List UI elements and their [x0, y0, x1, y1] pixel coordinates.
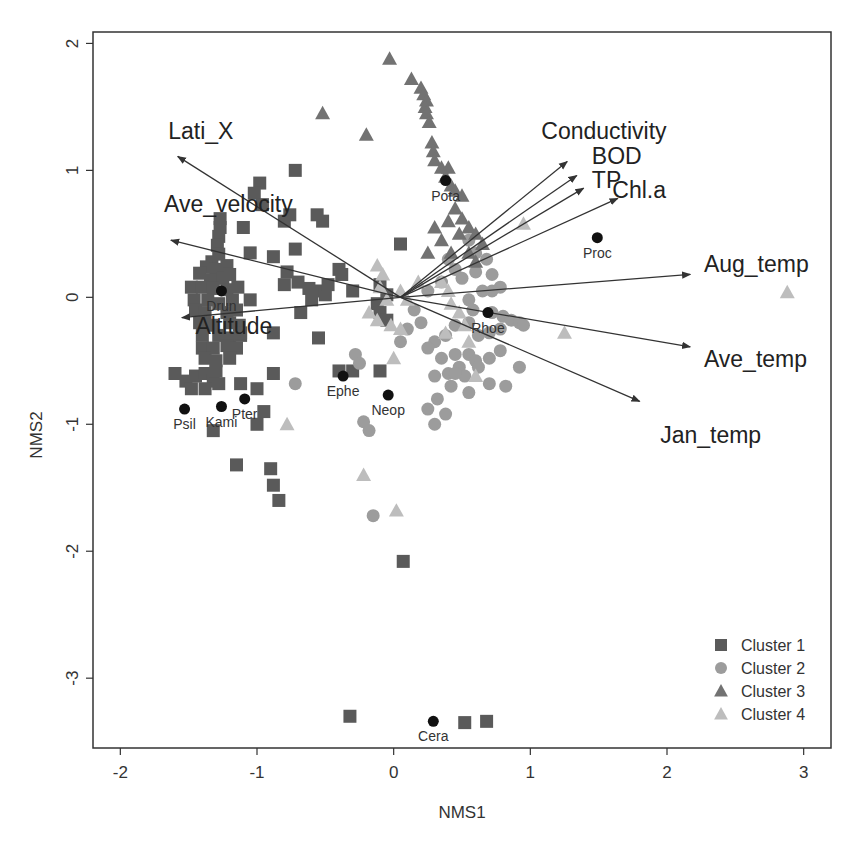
taxon-label: Psil [173, 416, 196, 432]
x-tick-label: 1 [526, 763, 535, 782]
cluster-1-point [234, 377, 247, 390]
cluster-2-point [483, 352, 496, 365]
taxon-point [482, 307, 493, 318]
taxon-label: Drun [206, 298, 236, 314]
cluster-2-point [431, 392, 444, 405]
cluster-2-point [480, 253, 493, 266]
cluster-2-point [483, 377, 496, 390]
cluster-3-point [434, 233, 449, 246]
cluster-1-point [199, 382, 212, 395]
cluster-2-point [367, 509, 380, 522]
taxon-point [592, 232, 603, 243]
y-tick-label: 0 [64, 293, 83, 302]
cluster-1-point [231, 281, 244, 294]
cluster-1-point [244, 246, 257, 259]
vector-label: Jan_temp [660, 422, 761, 448]
y-axis-title: NMS2 [27, 411, 46, 458]
cluster-2-point [415, 316, 428, 329]
cluster-1-point [480, 715, 493, 728]
cluster-2-point [472, 361, 485, 374]
x-tick-label: -2 [113, 763, 128, 782]
vectors-layer: Lati_XAve_velocityAltitudeConductivityBO… [164, 118, 809, 449]
cluster-2-point [499, 380, 512, 393]
taxon-label: Ephe [327, 383, 360, 399]
y-tick-label: 2 [64, 39, 83, 48]
cluster-2-point [486, 268, 499, 281]
taxon-point [440, 175, 451, 186]
cluster-1-point [394, 238, 407, 251]
cluster-1-point [267, 250, 280, 263]
taxon-point [179, 404, 190, 415]
cluster-1-point [397, 555, 410, 568]
legend-label: Cluster 2 [741, 660, 805, 677]
cluster-1-point [294, 306, 307, 319]
taxon-point [428, 716, 439, 727]
cluster-2-point [428, 418, 441, 431]
cluster-2-point [494, 281, 507, 294]
cluster-1-point [210, 364, 223, 377]
cluster-2-point [435, 352, 448, 365]
cluster-1-point [244, 293, 257, 306]
cluster-2-point [445, 380, 458, 393]
vector-label: Lati_X [168, 118, 233, 144]
cluster-3-point [427, 220, 442, 233]
cluster-4-point [389, 503, 404, 516]
cluster-1-point [267, 367, 280, 380]
legend: Cluster 1Cluster 2Cluster 3Cluster 4 [714, 637, 805, 723]
points-layer [169, 51, 795, 729]
cluster-2-point [363, 424, 376, 437]
cluster-1-point [305, 293, 318, 306]
cluster-2-point [421, 342, 434, 355]
cluster-2-point [353, 357, 366, 370]
cluster-3-point [420, 245, 435, 258]
cluster-4-point [280, 417, 295, 430]
cluster-3-point [359, 127, 374, 140]
y-tick-label: 1 [64, 166, 83, 175]
x-tick-label: 0 [389, 763, 398, 782]
taxon-point [216, 401, 227, 412]
taxon-label: Rhoe [471, 320, 505, 336]
taxon-label: Cera [418, 728, 449, 744]
vector-label: Altitude [196, 313, 273, 339]
cluster-4-point [444, 296, 459, 309]
legend-swatch-cluster-4 [714, 707, 728, 719]
cluster-2-point [421, 403, 434, 416]
cluster-4-point [356, 468, 371, 481]
x-axis-title: NMS1 [438, 803, 485, 822]
cluster-3-point [382, 51, 397, 64]
cluster-4-point [386, 351, 401, 364]
x-axis: -2-10123 [113, 748, 809, 782]
cluster-1-point [272, 494, 285, 507]
vector-label: BOD [592, 143, 642, 169]
taxon-label: Pter [232, 406, 258, 422]
cluster-1-point [251, 382, 264, 395]
x-tick-label: 3 [799, 763, 808, 782]
cluster-2-point [394, 335, 407, 348]
cluster-3-point [315, 106, 330, 119]
cluster-2-point [439, 408, 452, 421]
cluster-2-point [517, 319, 530, 332]
cluster-2-point [428, 370, 441, 383]
cluster-1-point [343, 710, 356, 723]
taxon-point [216, 285, 227, 296]
cluster-1-point [185, 382, 198, 395]
taxon-point [338, 371, 349, 382]
cluster-1-point [333, 263, 346, 276]
taxon-point [239, 393, 250, 404]
cluster-1-point [289, 164, 302, 177]
taxon-label: Neop [371, 402, 405, 418]
vector-label: Aug_temp [704, 251, 809, 277]
vector-arrow-jan-temp [401, 297, 640, 401]
cluster-1-point [289, 243, 302, 256]
cluster-1-point [267, 479, 280, 492]
legend-swatch-cluster-3 [714, 684, 728, 696]
cluster-2-point [289, 377, 302, 390]
legend-swatch-cluster-1 [715, 639, 727, 651]
cluster-1-point [212, 377, 225, 390]
cluster-3-point [404, 71, 419, 84]
cluster-2-point [494, 344, 507, 357]
legend-label: Cluster 4 [741, 706, 805, 723]
cluster-4-point [780, 285, 795, 298]
cluster-2-point [449, 367, 462, 380]
cluster-3-point [441, 214, 456, 227]
